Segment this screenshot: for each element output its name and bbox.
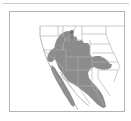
figure-container — [0, 0, 131, 121]
locality-marker-point — [70, 30, 73, 33]
map-graphic — [10, 12, 124, 111]
top-divider-rule — [3, 3, 129, 4]
map-frame — [9, 11, 125, 112]
